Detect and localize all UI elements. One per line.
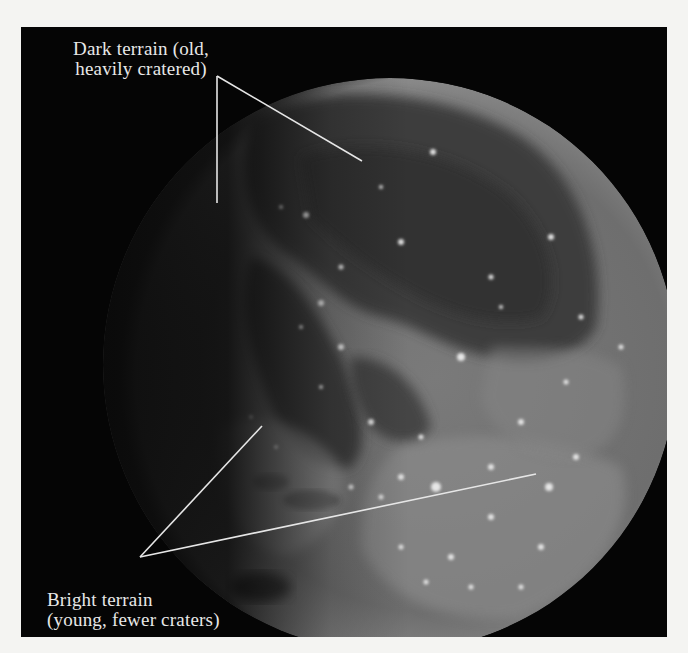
dark-terrain-label: Dark terrain (old, heavily cratered) — [46, 39, 236, 79]
photo-frame: Dark terrain (old, heavily cratered) Bri… — [21, 27, 667, 637]
dark-terrain-label-line2: heavily cratered) — [46, 59, 236, 79]
bright-terrain-label-line1: Bright terrain — [47, 590, 220, 610]
bright-terrain-label-line2: (young, fewer craters) — [47, 610, 220, 630]
bright-terrain-label: Bright terrain (young, fewer craters) — [47, 590, 220, 630]
moon-image — [21, 27, 667, 637]
dark-terrain-label-line1: Dark terrain (old, — [46, 39, 236, 59]
